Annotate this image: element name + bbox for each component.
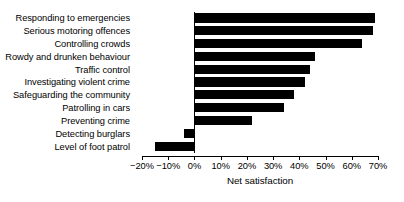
- x-tick-mark: [326, 156, 327, 160]
- bar: [194, 65, 309, 74]
- bar-row: [142, 76, 378, 89]
- bar: [194, 26, 372, 35]
- bar: [194, 103, 283, 112]
- category-row: Safeguarding the community: [0, 89, 136, 102]
- x-tick-label: 70%: [369, 161, 387, 172]
- bar-row: [142, 89, 378, 102]
- bar: [194, 90, 294, 99]
- x-tick-label: 20%: [238, 161, 256, 172]
- category-row: Serious motoring offences: [0, 25, 136, 38]
- x-tick-label: 10%: [211, 161, 229, 172]
- category-label: Investigating violent crime: [24, 77, 130, 87]
- bar-row: [142, 25, 378, 38]
- bar: [194, 77, 304, 86]
- bar: [194, 13, 375, 22]
- x-tick-mark: [273, 156, 274, 160]
- bar-row: [142, 63, 378, 76]
- plot-area: [142, 12, 378, 153]
- bar-row: [142, 12, 378, 25]
- category-row: Patrolling in cars: [0, 102, 136, 115]
- x-tick-label: −10%: [156, 161, 180, 172]
- bar-row: [142, 140, 378, 153]
- category-label: Level of foot patrol: [55, 142, 131, 152]
- category-label: Detecting burglars: [55, 129, 130, 139]
- bar: [194, 52, 315, 61]
- category-row: Controlling crowds: [0, 38, 136, 51]
- bar: [184, 129, 194, 138]
- category-row: Traffic control: [0, 63, 136, 76]
- category-row: Investigating violent crime: [0, 76, 136, 89]
- x-axis-tick-labels: −20%−10%0%10%20%30%40%50%60%70%: [142, 161, 378, 174]
- x-tick-mark: [378, 156, 379, 160]
- bar: [155, 142, 194, 151]
- x-tick-mark: [168, 156, 169, 160]
- category-row: Level of foot patrol: [0, 140, 136, 153]
- bar: [194, 39, 362, 48]
- x-tick-label: 0%: [188, 161, 201, 172]
- category-axis: Responding to emergenciesSerious motorin…: [0, 12, 136, 153]
- x-tick-mark: [247, 156, 248, 160]
- category-row: Rowdy and drunken behaviour: [0, 50, 136, 63]
- x-tick-mark: [142, 156, 143, 160]
- net-satisfaction-bar-chart: Responding to emergenciesSerious motorin…: [0, 0, 404, 202]
- x-tick-label: 40%: [290, 161, 308, 172]
- category-row: Responding to emergencies: [0, 12, 136, 25]
- category-label: Responding to emergencies: [15, 13, 130, 23]
- category-row: Preventing crime: [0, 115, 136, 128]
- x-tick-mark: [194, 156, 195, 160]
- x-tick-label: 60%: [343, 161, 361, 172]
- category-label: Patrolling in cars: [62, 103, 130, 113]
- category-label: Serious motoring offences: [23, 26, 130, 36]
- x-tick-mark: [221, 156, 222, 160]
- bar: [194, 116, 252, 125]
- bar-row: [142, 50, 378, 63]
- x-tick-mark: [299, 156, 300, 160]
- bar-row: [142, 102, 378, 115]
- x-tick-mark: [352, 156, 353, 160]
- category-row: Detecting burglars: [0, 127, 136, 140]
- category-label: Traffic control: [75, 65, 130, 75]
- bar-row: [142, 115, 378, 128]
- bar-row: [142, 38, 378, 51]
- category-label: Controlling crowds: [54, 39, 130, 49]
- x-tick-label: 30%: [264, 161, 282, 172]
- x-axis-title: Net satisfaction: [142, 175, 378, 187]
- category-label: Preventing crime: [61, 116, 130, 126]
- x-axis-ticks: [142, 156, 378, 160]
- x-tick-label: −20%: [130, 161, 154, 172]
- category-label: Safeguarding the community: [13, 90, 130, 100]
- x-tick-label: 50%: [316, 161, 334, 172]
- bar-row: [142, 127, 378, 140]
- category-label: Rowdy and drunken behaviour: [5, 52, 130, 62]
